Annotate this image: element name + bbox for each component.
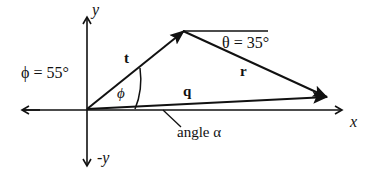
vector-t-label: t [124, 51, 129, 66]
vector-r-label: r [240, 64, 247, 79]
theta-value-label: θ = 35° [222, 35, 269, 51]
vector-diagram: y -y x t r q ϕ ϕ = 55° θ = 35° angle α [0, 0, 377, 182]
phi-value-label: ϕ = 55° [21, 65, 69, 81]
y-axis-label: y [92, 2, 99, 18]
x-axis-label: x [350, 114, 357, 130]
vector-q-label: q [183, 84, 191, 99]
phi-symbol: ϕ [117, 86, 125, 101]
vector-t [87, 31, 184, 109]
alpha-angle-label: angle α [177, 125, 221, 140]
phi-angle-arc [135, 68, 141, 109]
neg-y-axis-label: -y [97, 150, 109, 166]
